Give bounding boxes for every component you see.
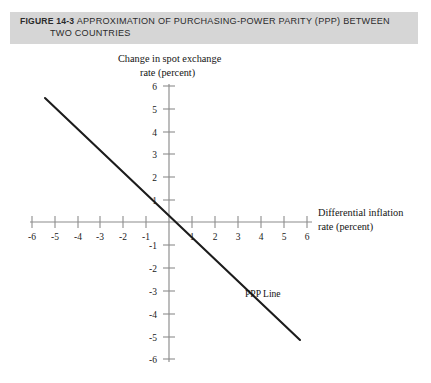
figure-caption-line-2: TWO COUNTRIES [20,28,418,40]
ppp-line-annotation: PPP Line [245,288,281,299]
chart-plot-area: Change in spot exchange rate (percent) D… [0,44,431,383]
x-tick-label: -3 [96,232,104,242]
y-tick-label: -6 [149,355,157,365]
y-tick-label: 4 [152,128,157,138]
figure-caption-band: FIGURE 14-3 APPROXIMATION OF PURCHASING-… [10,12,418,44]
figure-caption-text: APPROXIMATION OF PURCHASING-POWER PARITY… [77,16,390,26]
figure-caption-text-continued: TWO COUNTRIES [50,28,131,38]
x-tick-label: 6 [305,232,310,242]
x-tick-label: -2 [119,232,127,242]
figure-caption-line-1: FIGURE 14-3 APPROXIMATION OF PURCHASING-… [20,16,418,28]
y-tick-label: -2 [149,264,157,274]
x-tick-label: -6 [28,232,36,242]
x-tick-label: -5 [51,232,59,242]
y-axis-label-line-1: Change in spot exchange [118,53,222,64]
y-tick-label: -5 [149,333,157,343]
y-tick-label: 5 [152,105,157,115]
x-tick-label: 3 [236,232,241,242]
x-axis-label-line-1: Differential inflation [318,207,403,218]
x-tick-label: 4 [259,232,264,242]
figure-number: FIGURE 14-3 [20,16,74,26]
y-axis-label-line-2: rate (percent) [140,67,195,79]
x-tick-label: 5 [282,232,287,242]
ppp-chart-svg: Change in spot exchange rate (percent) D… [0,44,431,383]
y-tick-label: 3 [152,150,157,160]
ppp-line-series [45,98,300,340]
y-tick-label: 6 [152,82,157,92]
y-tick-label: -4 [149,310,157,320]
y-tick-label: 2 [152,173,157,183]
x-axis-label-line-2: rate (percent) [318,221,373,233]
y-axis-tick-labels: 6 5 4 3 2 1 -1 -2 -3 -4 -5 -6 [149,82,157,365]
x-tick-label: 2 [213,232,218,242]
y-tick-label: -3 [149,287,157,297]
x-tick-label: -4 [74,232,82,242]
y-tick-label: -1 [149,241,157,251]
